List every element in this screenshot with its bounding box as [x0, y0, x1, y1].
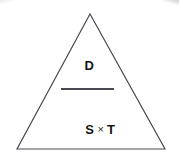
- formula-denominator: S×T: [0, 107, 179, 153]
- formula-group: D S×T: [0, 0, 179, 158]
- denominator-term-time: T: [107, 122, 115, 137]
- formula-numerator: D: [0, 58, 179, 73]
- fraction-bar: [61, 88, 114, 90]
- multiplication-operator-icon: ×: [94, 123, 106, 135]
- diagram-canvas: D S×T: [0, 0, 179, 158]
